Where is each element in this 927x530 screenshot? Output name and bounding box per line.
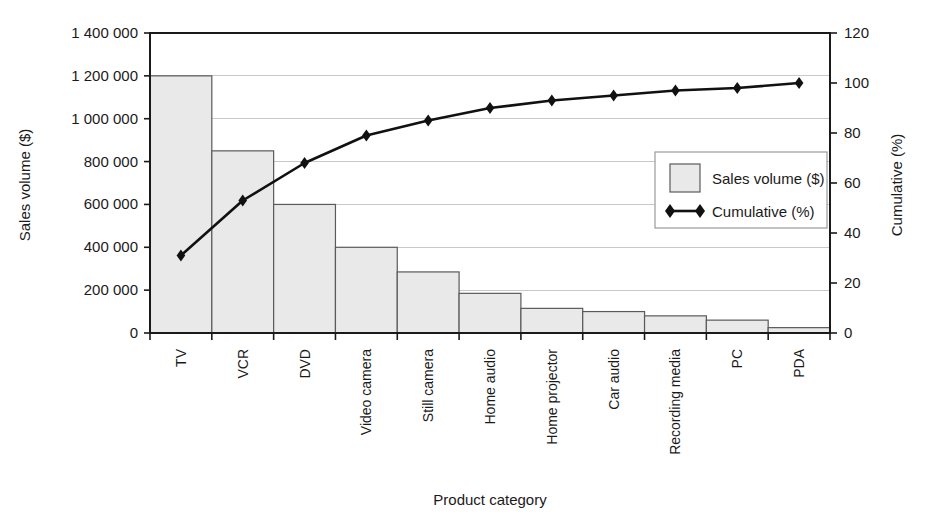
- bar-home-projector: [521, 308, 583, 333]
- bar-tv: [150, 76, 212, 333]
- x-category-label-vcr: VCR: [235, 349, 251, 379]
- right-tick-label: 80: [844, 124, 861, 141]
- left-tick-label: 1 200 000: [71, 67, 138, 84]
- x-category-label-tv: TV: [173, 348, 189, 367]
- pareto-chart: 0200 000400 000600 000800 0001 000 0001 …: [0, 0, 927, 530]
- bar-vcr: [212, 151, 274, 333]
- x-category-label-pda: PDA: [791, 348, 807, 377]
- left-tick-label: 1 400 000: [71, 24, 138, 41]
- x-axis-title: Product category: [433, 491, 547, 508]
- x-category-label-still-camera: Still camera: [420, 349, 436, 422]
- left-axis-title: Sales volume ($): [16, 129, 33, 242]
- left-tick-label: 400 000: [84, 238, 138, 255]
- left-tick-label: 1 000 000: [71, 110, 138, 127]
- legend-label-cumulative: Cumulative (%): [712, 203, 815, 220]
- right-tick-label: 0: [844, 324, 852, 341]
- legend-swatch-sales-volume: [670, 164, 700, 192]
- bar-still-camera: [397, 272, 459, 333]
- bar-pc: [706, 320, 768, 333]
- left-tick-label: 600 000: [84, 195, 138, 212]
- left-tick-label: 200 000: [84, 281, 138, 298]
- x-category-label-pc: PC: [729, 349, 745, 368]
- right-tick-label: 40: [844, 224, 861, 241]
- x-category-label-dvd: DVD: [297, 349, 313, 379]
- right-axis-title: Cumulative (%): [888, 134, 905, 237]
- chart-legend: Sales volume ($) Cumulative (%): [655, 152, 827, 228]
- legend-label-sales-volume: Sales volume ($): [712, 170, 825, 187]
- x-category-label-home-projector: Home projector: [544, 349, 560, 445]
- x-category-label-home-audio: Home audio: [482, 349, 498, 425]
- bar-recording-media: [645, 316, 707, 333]
- right-tick-label: 60: [844, 174, 861, 191]
- left-tick-label: 0: [130, 324, 138, 341]
- left-tick-label: 800 000: [84, 153, 138, 170]
- x-category-label-video-camera: Video camera: [358, 349, 374, 435]
- chart-background: [0, 0, 927, 530]
- right-tick-label: 20: [844, 274, 861, 291]
- x-category-label-car-audio: Car audio: [606, 349, 622, 410]
- bar-car-audio: [583, 312, 645, 333]
- right-tick-label: 100: [844, 74, 869, 91]
- right-tick-label: 120: [844, 24, 869, 41]
- bar-dvd: [274, 204, 336, 333]
- x-category-label-recording-media: Recording media: [667, 349, 683, 455]
- bar-home-audio: [459, 293, 521, 333]
- chart-canvas: 0200 000400 000600 000800 0001 000 0001 …: [0, 0, 927, 530]
- bar-video-camera: [335, 247, 397, 333]
